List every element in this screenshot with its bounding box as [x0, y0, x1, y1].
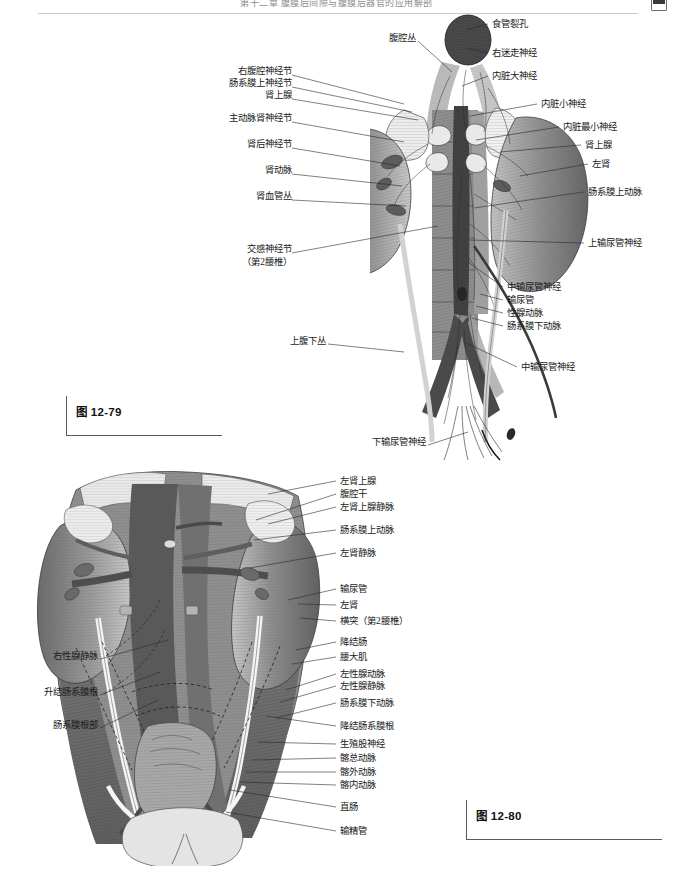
label-left-adrenal-gland: 左肾上腺	[340, 476, 376, 487]
atlas-page: 第十二章 腹膜后间隙与腹膜后器官的应用解剖	[0, 0, 673, 878]
label-left-kidney-2: 左肾	[340, 600, 358, 611]
label-internal-iliac-artery: 髂内动脉	[340, 780, 376, 791]
label-descending-mesocolon-root: 降结肠系膜根	[340, 721, 394, 732]
label-external-iliac-artery: 髂外动脉	[340, 767, 376, 778]
label-transverse-process: 横突（第2腰椎）	[340, 616, 408, 627]
label-mesenteric-root: 肠系膜根部	[0, 720, 98, 731]
label-right-gonadal-vein: 右性腺静脉	[0, 651, 98, 662]
label-inferior-mesenteric-artery-2: 肠系膜下动脉	[340, 698, 394, 709]
figure-12-80-caption: 图 12-80	[466, 800, 672, 840]
label-ureter-2: 输尿管	[340, 584, 367, 595]
label-psoas-major: 腰大肌	[340, 652, 367, 663]
label-left-gonadal-artery: 左性腺动脉	[340, 669, 385, 680]
label-rectum: 直肠	[340, 802, 358, 813]
figure-12-80-caption-text: 图 12-80	[476, 810, 522, 822]
figure-12-80-leaders	[0, 0, 673, 878]
label-superior-mesenteric-artery-2: 肠系膜上动脉	[340, 525, 394, 536]
label-left-renal-vein: 左肾静脉	[340, 548, 376, 559]
label-common-iliac-artery: 髂总动脉	[340, 753, 376, 764]
label-vas-deferens: 输精管	[340, 826, 367, 837]
label-ascending-mesocolon-root: 升结肠系膜根	[0, 687, 98, 698]
label-left-adrenal-vein: 左肾上腺静脉	[340, 502, 394, 513]
label-descending-colon: 降结肠	[340, 637, 367, 648]
label-genitofemoral-nerve: 生殖股神经	[340, 739, 385, 750]
label-left-gonadal-vein: 左性腺静脉	[340, 681, 385, 692]
label-celiac-trunk: 腹腔干	[340, 489, 367, 500]
